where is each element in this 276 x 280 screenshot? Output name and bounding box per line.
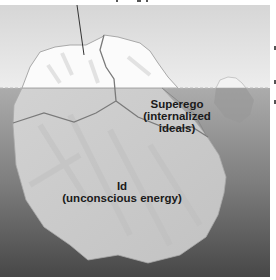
id-label: Id (unconscious energy) — [52, 180, 192, 204]
iceberg-illustration — [0, 5, 270, 277]
cropped-text-fragment — [146, 0, 148, 2]
superego-subtitle: (internalized — [142, 110, 212, 122]
id-title: Id — [52, 180, 192, 192]
superego-title: Superego — [142, 98, 212, 110]
cropped-text-fragment — [274, 80, 276, 84]
id-subtitle: (unconscious energy) — [52, 192, 192, 204]
superego-label: Superego (internalized ideals) — [142, 98, 212, 134]
cropped-text-fragment — [274, 100, 276, 104]
cropped-text-fragment — [137, 0, 141, 2]
cropped-text-fragment — [274, 46, 276, 50]
superego-subtitle-2: ideals) — [142, 122, 212, 134]
iceberg-diagram: Ego (conscious mind...) Superego (intern… — [0, 5, 270, 277]
cropped-text-fragment — [116, 0, 118, 2]
